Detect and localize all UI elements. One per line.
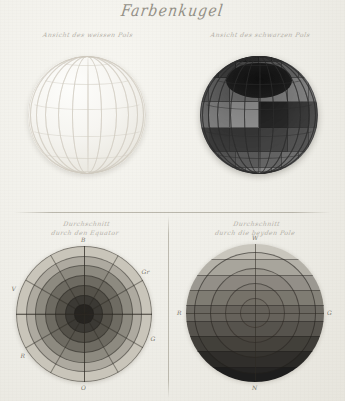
- caption-equator-section: Durchschnitt durch den Equator: [16, 219, 155, 238]
- parallel-line: [213, 145, 305, 159]
- parallel-line: [29, 93, 144, 110]
- caption-line-1: Ansicht des weissen Pols: [42, 31, 133, 38]
- parallel-line: [233, 58, 284, 66]
- caption-line-1: Durchschnitt: [63, 220, 111, 227]
- disc-label: B: [81, 236, 85, 243]
- axis-line: [84, 246, 85, 382]
- parallel-line: [201, 120, 316, 137]
- caption-black-pole-sphere: Ansicht des schwarzen Pols: [187, 30, 334, 39]
- parallel-line: [61, 164, 112, 172]
- disc-label: G: [151, 335, 156, 342]
- pole-section-disc: [186, 244, 324, 382]
- parallel-line: [61, 58, 112, 66]
- caption-line-1: Ansicht des schwarzen Pols: [210, 31, 311, 38]
- parallel-lines: [200, 56, 318, 174]
- disc-label: R: [20, 352, 25, 359]
- page-title: Farbenkugel: [0, 1, 345, 19]
- disc-label: Gr: [142, 268, 150, 275]
- horizontal-divider: [14, 212, 331, 213]
- parallel-line: [213, 71, 305, 85]
- equator-section-disc: [16, 246, 152, 382]
- parallel-line: [233, 164, 284, 172]
- disc-label: R: [177, 309, 182, 316]
- disc-label: N: [252, 384, 257, 391]
- parallel-line: [29, 120, 144, 137]
- white-pole-sphere: [28, 56, 146, 174]
- caption-white-pole-sphere: Ansicht des weissen Pols: [17, 30, 159, 39]
- vertical-divider: [168, 216, 169, 398]
- parallel-lines: [28, 56, 146, 174]
- axis-line: [255, 244, 256, 382]
- disc-label: W: [252, 234, 258, 241]
- disc-label: O: [81, 384, 86, 391]
- black-pole-sphere: [200, 56, 318, 174]
- disc-label: G: [327, 309, 332, 316]
- disc-label: V: [11, 285, 15, 292]
- parallel-line: [41, 71, 133, 85]
- parallel-line: [41, 145, 133, 159]
- caption-line-1: Durchschnitt: [233, 220, 281, 227]
- parallel-line: [201, 93, 316, 110]
